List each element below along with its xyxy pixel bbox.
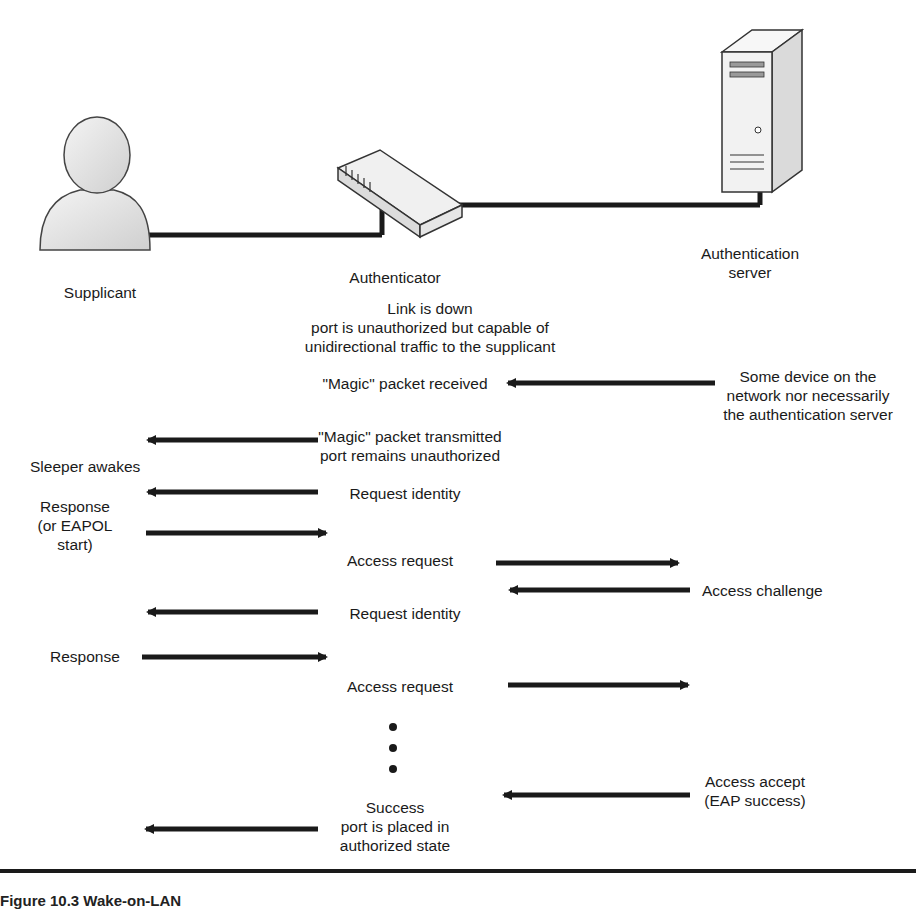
auth-server-label: Authentication server: [680, 244, 820, 282]
access-accept-label: Access accept (EAP success): [690, 772, 820, 810]
supplicant-label: Supplicant: [40, 283, 160, 302]
server-icon: [722, 30, 802, 192]
figure-caption: Figure 10.3 Wake-on-LAN: [0, 892, 181, 909]
access-challenge-label: Access challenge: [702, 581, 823, 600]
magic-received-label: "Magic" packet received: [300, 374, 510, 393]
success-label: Success port is placed in authorized sta…: [320, 798, 470, 855]
sleeper-awakes-label: Sleeper awakes: [30, 457, 140, 476]
authenticator-label: Authenticator: [340, 268, 450, 287]
access-request-1-label: Access request: [330, 551, 470, 570]
request-identity-1-label: Request identity: [330, 484, 480, 503]
magic-transmitted-label: "Magic" packet transmitted port remains …: [300, 427, 520, 465]
person-icon: [40, 117, 150, 250]
ellipsis-dots: [389, 723, 397, 773]
network-device-label: Some device on the network nor necessari…: [700, 367, 916, 424]
access-request-2-label: Access request: [330, 677, 470, 696]
response-2-label: Response: [50, 647, 120, 666]
authenticator-state: Link is down port is unauthorized but ca…: [270, 299, 590, 356]
switch-icon: [338, 150, 462, 237]
request-identity-2-label: Request identity: [330, 604, 480, 623]
response-1-label: Response (or EAPOL start): [30, 497, 120, 554]
